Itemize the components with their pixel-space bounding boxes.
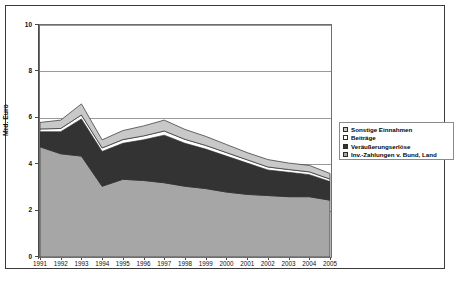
y-axis-tick-mark: [35, 24, 38, 25]
y-axis-tick-label: 0: [14, 253, 32, 260]
legend-swatch-icon: [343, 144, 348, 149]
legend-swatch-icon: [343, 127, 348, 132]
chart-frame: Mrd. Euro 0246810 1991199219931994199519…: [5, 5, 445, 269]
y-axis-tick-mark: [35, 256, 38, 257]
legend-item-label: Sonstige Einnahmen: [351, 126, 412, 133]
y-axis-tick-label: 2: [14, 206, 32, 213]
plot-area: [39, 24, 332, 258]
y-axis-tick-label: 10: [14, 21, 32, 28]
y-axis-tick-label: 6: [14, 113, 32, 120]
legend-item[interactable]: Beiträge: [343, 134, 450, 143]
legend-item-label: Inv.-Zahlungen v. Bund, Land: [351, 151, 437, 158]
legend-item-label: Veräußerungserlöse: [351, 143, 411, 150]
x-axis-tick-label: 2005: [317, 260, 343, 268]
legend-item[interactable]: Veräußerungserlöse: [343, 142, 450, 151]
y-axis-tick-label: 4: [14, 160, 32, 167]
stacked-area-chart: [40, 25, 331, 257]
legend-item[interactable]: Inv.-Zahlungen v. Bund, Land: [343, 151, 450, 160]
legend-swatch-icon: [343, 135, 348, 140]
legend-item[interactable]: Sonstige Einnahmen: [343, 125, 450, 134]
legend-item-label: Beiträge: [351, 134, 376, 141]
y-axis-tick-mark: [35, 210, 38, 211]
y-axis-tick-mark: [35, 117, 38, 118]
legend-swatch-icon: [343, 152, 348, 157]
chart-legend: Sonstige EinnahmenBeiträgeVeräußerungser…: [339, 122, 454, 160]
y-axis-tick-mark: [35, 163, 38, 164]
y-axis-title: Mrd. Euro: [2, 104, 9, 136]
y-axis-tick-mark: [35, 70, 38, 71]
y-axis-tick-label: 8: [14, 67, 32, 74]
